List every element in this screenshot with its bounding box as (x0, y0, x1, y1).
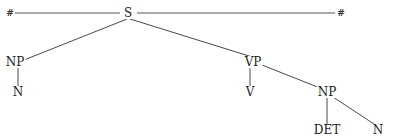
edge-s-np (24, 19, 127, 60)
node-s: S (123, 7, 133, 19)
syntax-tree-diagram: # # S NP N VP V NP DET N (0, 0, 393, 139)
left-boundary-symbol: # (5, 7, 15, 19)
node-n-object: N (372, 124, 385, 136)
node-np-subject: NP (5, 56, 26, 68)
node-n-subject: N (12, 86, 25, 98)
node-v: V (245, 86, 256, 98)
node-det: DET (313, 124, 341, 136)
edge-s-vp (130, 19, 262, 60)
edge-np-n-right (333, 97, 374, 124)
node-vp: VP (244, 56, 263, 68)
tree-edges (0, 0, 393, 139)
edge-vp-np (262, 65, 320, 88)
right-boundary-symbol: # (336, 7, 346, 19)
node-np-object: NP (317, 86, 338, 98)
